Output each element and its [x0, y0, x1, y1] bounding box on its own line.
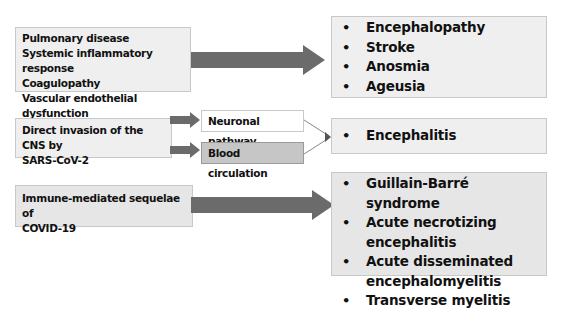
pathway-neuronal: Neuronal pathway: [201, 110, 304, 132]
effects-box-immune-mediated: Guillain-Barré syndrome Acute necrotizin…: [331, 172, 547, 276]
cause-box-direct-invasion: Direct invasion of the CNS by SARS-CoV-2: [15, 118, 172, 158]
cause-box-immune-mediated: Immune-mediated sequelae of COVID-19: [15, 185, 193, 227]
effect-item: Encephalitis: [340, 125, 540, 146]
effects-box-direct-invasion: Encephalitis: [331, 118, 547, 154]
effect-item: Anosmia: [340, 57, 540, 77]
right-arrow-icon: [191, 190, 334, 220]
pathway-label: Blood circulation: [208, 147, 267, 179]
pathway-blood-circulation: Blood circulation: [201, 142, 304, 164]
effect-item: Acute necrotizing encephalitis: [340, 213, 540, 252]
effect-item: Guillain-Barré syndrome: [340, 174, 540, 213]
cause-line: Pulmonary disease: [22, 31, 184, 46]
effect-item: Encephalopathy: [340, 18, 540, 38]
cause-line: Vascular endothelial dysfunction: [22, 91, 184, 121]
effect-item: Transverse myelitis: [340, 291, 540, 311]
effect-item: Acute disseminated encephalomyelitis: [340, 252, 540, 291]
effect-item: Ageusia: [340, 77, 540, 97]
effects-box-systemic: Encephalopathy Stroke Anosmia Ageusia: [331, 16, 547, 98]
right-arrow-icon: [170, 142, 200, 158]
cause-line: Systemic inflammatory response: [22, 46, 184, 76]
cause-box-systemic: Pulmonary disease Systemic inflammatory …: [15, 27, 191, 92]
cause-line: Immune-mediated sequelae of: [22, 191, 186, 221]
right-arrow-icon: [170, 112, 200, 128]
cause-line: Direct invasion of the CNS by: [22, 123, 165, 153]
cause-line: SARS-CoV-2: [22, 153, 165, 168]
effect-item: Stroke: [340, 38, 540, 58]
right-arrow-icon: [191, 45, 325, 75]
connector-lines: [303, 114, 333, 160]
cause-line: Coagulopathy: [22, 76, 184, 91]
cause-line: COVID-19: [22, 221, 186, 236]
